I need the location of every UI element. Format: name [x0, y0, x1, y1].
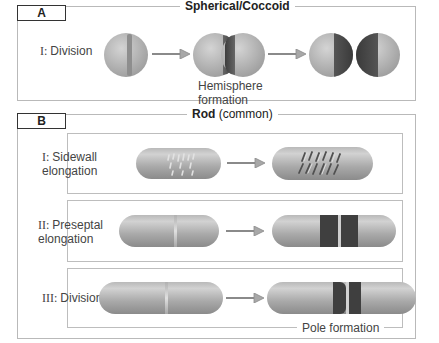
step-line1: Division — [60, 291, 102, 305]
sidewall-insertion-marks-dark — [272, 147, 373, 180]
rod-preseptal-end — [272, 215, 396, 247]
step-line1: Preseptal — [52, 218, 103, 232]
arrow-icon — [226, 293, 264, 303]
new-hemisphere-dark — [334, 33, 353, 77]
sidewall-insertion-marks — [136, 148, 221, 179]
step-line1: Sidewall — [52, 150, 97, 164]
arrow-icon — [152, 49, 190, 59]
daughter-coccus-left — [309, 33, 353, 77]
step-i-label: I: Sidewall elongation — [42, 150, 97, 178]
panel-b-label: B — [17, 113, 66, 129]
step-line2: elongation — [38, 232, 103, 246]
arrow-icon — [227, 158, 265, 168]
step-roman: III: — [42, 291, 57, 305]
caption-line1: Hemisphere — [198, 79, 263, 93]
pole-band-right — [349, 282, 361, 314]
panel-a-title: Spherical/Coccoid — [180, 0, 295, 13]
arrow-icon — [268, 49, 306, 59]
rod-division-start — [99, 282, 223, 314]
arrow-icon — [226, 226, 264, 236]
preseptal-band — [174, 215, 177, 247]
new-wall-dark-right — [225, 35, 235, 75]
coccus-hemisphere-formation — [193, 33, 265, 77]
rod-sidewall-end — [272, 147, 373, 180]
step-iii-label: III: Division — [42, 291, 102, 305]
division-band — [165, 282, 168, 314]
daughter-coccus-right — [356, 33, 400, 77]
panel-b-title: Rod (common) — [187, 107, 278, 121]
new-hemisphere-dark — [356, 33, 378, 77]
panel-a-title-text: Spherical/Coccoid — [185, 0, 290, 13]
caption-line2: formation — [198, 93, 263, 107]
panel-b-title-rest: (common) — [215, 107, 272, 121]
rod-sidewall-start — [136, 148, 221, 179]
rod-division-end — [267, 282, 416, 314]
septum-band — [127, 34, 132, 76]
coccus-dividing-cell — [104, 33, 148, 77]
step-roman: I: — [42, 150, 49, 164]
pole-formation-caption: Pole formation — [297, 321, 384, 335]
hemisphere-right — [221, 33, 265, 77]
hemisphere-caption: Hemisphere formation — [198, 79, 263, 107]
step-text: Division — [50, 44, 92, 58]
rod-preseptal-start — [119, 215, 219, 247]
step-roman: II: — [38, 218, 49, 232]
new-wall-band-left — [320, 215, 338, 247]
panel-b-title-bold: Rod — [192, 107, 215, 121]
step-ii-label: II: Preseptal elongation — [38, 218, 103, 246]
panel-a-step-label: I: Division — [40, 44, 92, 58]
new-wall-band-right — [341, 215, 358, 247]
pole-band-left — [333, 282, 346, 314]
panel-a-label: A — [17, 5, 66, 21]
step-roman: I: — [40, 44, 47, 58]
step-line2: elongation — [42, 164, 97, 178]
